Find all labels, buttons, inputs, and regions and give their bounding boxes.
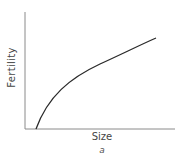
panel-caption: a [92, 145, 112, 155]
x-axis-label: Size [80, 131, 124, 142]
chart: Fertility Size a [0, 0, 185, 166]
y-axis-label: Fertility [6, 46, 17, 90]
fertility-curve [36, 38, 156, 129]
